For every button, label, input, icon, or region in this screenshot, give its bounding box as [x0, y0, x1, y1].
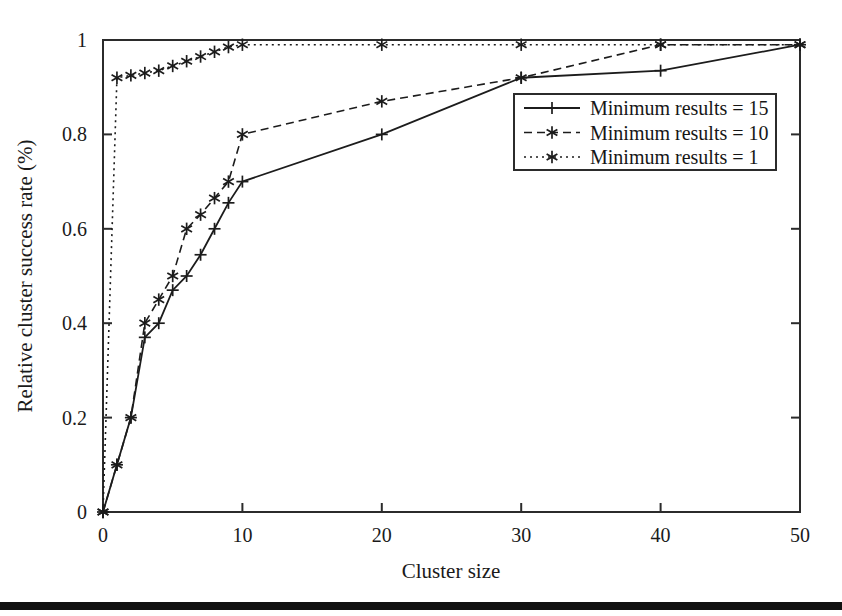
- data-point-marker: [195, 249, 207, 261]
- x-tick-label: 40: [651, 524, 671, 546]
- data-point-marker: [139, 67, 150, 79]
- data-point-marker: [139, 317, 150, 329]
- data-point-marker: [153, 293, 164, 305]
- y-tick-label: 0.6: [62, 218, 87, 240]
- y-tick-label: 0.8: [62, 123, 87, 145]
- chart-legend[interactable]: Minimum results = 15Minimum results = 10…: [514, 94, 776, 170]
- x-tick-label: 30: [511, 524, 531, 546]
- y-tick-label: 1: [77, 29, 87, 51]
- data-point-marker: [209, 223, 221, 235]
- data-point-marker: [223, 41, 234, 53]
- y-axis-title: Relative cluster success rate (%): [13, 140, 37, 413]
- x-tick-label: 10: [232, 524, 252, 546]
- legend-label: Minimum results = 10: [590, 122, 769, 144]
- legend-label: Minimum results = 1: [590, 146, 759, 168]
- data-point-marker: [195, 50, 206, 62]
- x-axis-tickmarks: [103, 503, 800, 512]
- y-tick-label: 0.2: [62, 407, 87, 429]
- legend-label: Minimum results = 15: [590, 97, 769, 119]
- y-tick-label: 0: [77, 501, 87, 523]
- y-tick-label: 0.4: [62, 312, 87, 334]
- scan-edge-band: [0, 602, 842, 610]
- x-tick-label: 0: [98, 524, 108, 546]
- x-axis-title: Cluster size: [402, 559, 501, 583]
- data-point-marker: [222, 197, 234, 209]
- chart-plot: 01020304050 00.20.40.60.81 Minimum resul…: [0, 0, 842, 616]
- data-point-marker: [376, 95, 387, 107]
- data-point-marker: [167, 60, 178, 72]
- data-point-marker: [167, 270, 178, 282]
- data-point-marker: [209, 46, 220, 58]
- data-point-marker: [153, 64, 164, 76]
- x-axis-tick-labels: 01020304050: [98, 524, 810, 546]
- x-tick-label: 20: [372, 524, 392, 546]
- data-point-marker: [181, 55, 192, 67]
- data-point-marker: [376, 128, 388, 140]
- y-axis-tick-labels: 00.20.40.60.81: [62, 29, 87, 523]
- data-point-marker: [236, 176, 248, 188]
- data-point-marker: [655, 65, 667, 77]
- x-tick-label: 50: [790, 524, 810, 546]
- figure-canvas: 01020304050 00.20.40.60.81 Minimum resul…: [0, 0, 842, 616]
- data-point-marker: [237, 128, 248, 140]
